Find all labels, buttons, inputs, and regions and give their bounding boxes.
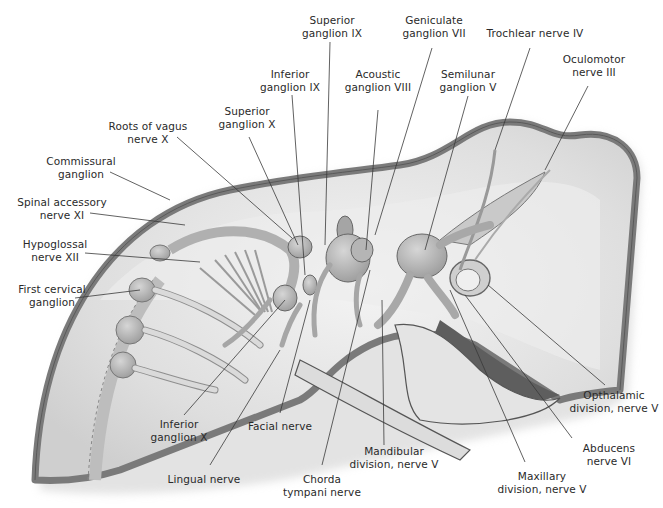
label-acoustic-ganglion-viii: Acoustic ganglion VIII xyxy=(340,68,416,94)
label-line: nerve X xyxy=(108,133,188,146)
label-line: ganglion V xyxy=(436,81,500,94)
label-line: Commissural xyxy=(44,155,118,168)
label-line: ganglion xyxy=(44,168,118,181)
label-commissural-ganglion: Commissural ganglion xyxy=(44,155,118,181)
label-line: ganglion VIII xyxy=(340,81,416,94)
label-chorda-tympani-nerve: Chorda tympani nerve xyxy=(280,473,364,499)
label-line: Maxillary xyxy=(490,470,594,483)
label-line: Oculomotor xyxy=(560,53,628,66)
label-line: tympani nerve xyxy=(280,486,364,499)
eye-inner xyxy=(456,269,480,291)
label-oculomotor-nerve-iii: Oculomotor nerve III xyxy=(560,53,628,79)
label-line: Lingual nerve xyxy=(164,473,244,486)
label-line: Roots of vagus xyxy=(108,120,188,133)
label-inferior-ganglion-ix: Inferior ganglion IX xyxy=(258,68,322,94)
label-facial-nerve: Facial nerve xyxy=(242,420,318,433)
label-inferior-ganglion-x: Inferior ganglion X xyxy=(146,418,212,444)
label-line: Mandibular xyxy=(342,445,446,458)
label-line: Hypoglossal xyxy=(20,238,90,251)
label-line: Superior xyxy=(300,14,364,27)
label-line: Geniculate xyxy=(400,14,468,27)
label-roots-of-vagus-nerve-x: Roots of vagus nerve X xyxy=(108,120,188,146)
label-semilunar-ganglion-v: Semilunar ganglion V xyxy=(436,68,500,94)
label-line: division, nerve V xyxy=(490,483,594,496)
label-line: Spinal accessory xyxy=(12,196,112,209)
label-geniculate-ganglion-vii: Geniculate ganglion VII xyxy=(400,14,468,40)
label-hypoglossal-nerve-xii: Hypoglossal nerve XII xyxy=(20,238,90,264)
label-line: nerve VI xyxy=(574,455,644,468)
label-line: nerve XI xyxy=(12,209,112,222)
label-line: Acoustic xyxy=(340,68,416,81)
label-line: First cervical xyxy=(10,283,94,296)
label-mandibular-division-nerve-v: Mandibular division, nerve V xyxy=(342,445,446,471)
label-line: ganglion IX xyxy=(300,27,364,40)
label-opthalamic-division-nerve-v: Opthalamic division, nerve V xyxy=(562,389,663,415)
label-line: Inferior xyxy=(146,418,212,431)
label-line: Inferior xyxy=(258,68,322,81)
label-superior-ganglion-x: Superior ganglion X xyxy=(216,105,278,131)
label-line: nerve III xyxy=(560,66,628,79)
label-line: ganglion xyxy=(10,296,94,309)
label-line: ganglion X xyxy=(216,118,278,131)
label-line: ganglion IX xyxy=(258,81,322,94)
label-line: Opthalamic xyxy=(562,389,663,402)
label-first-cervical-ganglion: First cervical ganglion xyxy=(10,283,94,309)
label-line: division, nerve V xyxy=(342,458,446,471)
label-spinal-accessory-nerve-xi: Spinal accessory nerve XI xyxy=(12,196,112,222)
label-line: nerve XII xyxy=(20,251,90,264)
label-line: Trochlear nerve IV xyxy=(480,27,590,40)
label-trochlear-nerve-iv: Trochlear nerve IV xyxy=(480,27,590,40)
label-line: division, nerve V xyxy=(562,402,663,415)
label-superior-ganglion-ix: Superior ganglion IX xyxy=(300,14,364,40)
label-line: ganglion X xyxy=(146,431,212,444)
label-line: Semilunar xyxy=(436,68,500,81)
label-line: Abducens xyxy=(574,442,644,455)
label-line: Facial nerve xyxy=(242,420,318,433)
label-line: ganglion VII xyxy=(400,27,468,40)
label-line: Superior xyxy=(216,105,278,118)
label-line: Chorda xyxy=(280,473,364,486)
label-lingual-nerve: Lingual nerve xyxy=(164,473,244,486)
label-abducens-nerve-vi: Abducens nerve VI xyxy=(574,442,644,468)
label-maxillary-division-nerve-v: Maxillary division, nerve V xyxy=(490,470,594,496)
